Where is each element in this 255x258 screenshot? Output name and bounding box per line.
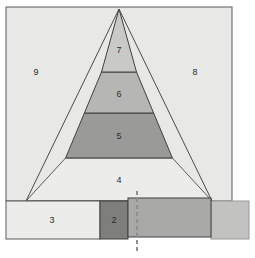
bottom-rect-overlap [128,198,211,237]
bottom-rect-2 [100,201,128,239]
pyramid-layer-5 [66,113,173,158]
pyramid-diagram: 9 8 7 6 5 4 3 2 [0,0,255,258]
bottom-rect-3 [6,201,100,239]
figure-canvas: 9 8 7 6 5 4 3 2 [0,0,255,258]
bottom-rect-tail [211,201,249,239]
